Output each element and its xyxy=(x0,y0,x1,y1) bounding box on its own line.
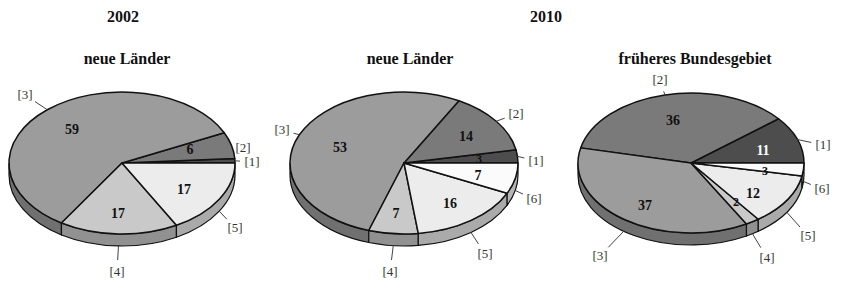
slice-value-label: 12 xyxy=(746,186,760,201)
slice-value-label: 11 xyxy=(756,143,769,158)
slice-value-label: 17 xyxy=(111,206,125,221)
category-label: [2] xyxy=(508,106,523,121)
leader-line xyxy=(804,182,811,185)
category-label: [1] xyxy=(528,153,543,168)
pie-charts-canvas: 6591717[1][2][3][4][5]314537167[1][2][3]… xyxy=(0,0,842,295)
slice-value-label: 17 xyxy=(177,182,191,197)
category-label: [5] xyxy=(800,228,815,243)
category-label: [1] xyxy=(815,137,830,152)
category-label: [2] xyxy=(652,72,667,87)
slice-value-label: 53 xyxy=(333,140,347,155)
leader-line xyxy=(219,211,227,219)
leader-line xyxy=(391,246,393,260)
category-label: [4] xyxy=(382,264,397,279)
category-label: [3] xyxy=(17,87,32,102)
category-label: [3] xyxy=(274,122,289,137)
slice-value-label: 7 xyxy=(475,168,482,183)
category-label: [3] xyxy=(592,248,607,263)
category-label: [4] xyxy=(109,264,124,279)
category-label: [5] xyxy=(477,246,492,261)
leader-line xyxy=(35,102,47,110)
category-label: [2] xyxy=(235,140,250,155)
slice-value-label: 37 xyxy=(638,198,652,213)
slice-value-label: 2 xyxy=(733,195,739,209)
slice-value-label: 36 xyxy=(666,113,680,128)
slice-value-label: 6 xyxy=(187,142,194,157)
leader-line xyxy=(118,246,119,260)
slice-value-label: 3 xyxy=(476,152,482,166)
slice-value-label: 16 xyxy=(443,196,457,211)
pie-chart-3: 1136372123[1][2][3][4][5][6] xyxy=(578,72,831,265)
slice-value-label: 59 xyxy=(65,122,79,137)
category-label: [1] xyxy=(244,154,259,169)
pie-chart-1: 6591717[1][2][3][4][5] xyxy=(9,87,260,279)
leader-line xyxy=(471,232,478,243)
leader-line xyxy=(608,231,623,247)
leader-line xyxy=(787,212,800,227)
leader-line xyxy=(496,118,505,121)
leader-line xyxy=(517,156,524,158)
pie-chart-2: 314537167[1][2][3][4][5][6] xyxy=(274,92,543,279)
category-label: [6] xyxy=(526,191,541,206)
slice-value-label: 14 xyxy=(459,129,473,144)
leader-line xyxy=(294,133,300,135)
category-label: [5] xyxy=(227,220,242,235)
slice-value-label: 3 xyxy=(762,164,768,178)
category-label: [4] xyxy=(759,250,774,265)
slice-value-label: 7 xyxy=(393,206,400,221)
leader-line xyxy=(752,234,760,248)
category-label: [6] xyxy=(814,181,829,196)
leader-line xyxy=(515,190,523,194)
